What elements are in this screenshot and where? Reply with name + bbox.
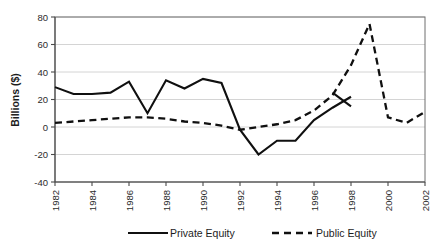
x-tick-label-1998: 1998 — [346, 190, 357, 211]
x-tick-label-1984: 1984 — [87, 190, 98, 211]
y-tick-label-0: 0 — [43, 122, 48, 133]
y-tick-label-minus40: -40 — [34, 177, 48, 188]
x-tick-label-1992: 1992 — [235, 190, 246, 211]
x-tick-label-2000: 2000 — [383, 190, 394, 211]
y-tick-label-40: 40 — [37, 67, 48, 78]
x-tick-label-1982: 1982 — [50, 190, 61, 211]
x-tick-label-1990: 1990 — [198, 190, 209, 211]
x-tick-label-2002: 2002 — [420, 190, 431, 211]
y-axis-title-text: Billions ($) — [9, 73, 21, 127]
line-chart: Billions ($) 80 60 40 20 0 -20 -40 — [0, 0, 438, 246]
legend-label-public-equity: Public Equity — [316, 227, 377, 239]
y-axis-title: Billions ($) — [9, 73, 21, 127]
y-tick-label-20: 20 — [37, 94, 48, 105]
x-tick-label-1994: 1994 — [272, 190, 283, 211]
legend-label-private-equity: Private Equity — [170, 227, 236, 239]
y-tick-label-80: 80 — [37, 12, 48, 23]
x-tick-label-1988: 1988 — [161, 190, 172, 211]
y-tick-label-minus20: -20 — [34, 149, 48, 160]
y-tick-label-60: 60 — [37, 39, 48, 50]
x-tick-label-1996: 1996 — [309, 190, 320, 211]
x-tick-label-1986: 1986 — [124, 190, 135, 211]
